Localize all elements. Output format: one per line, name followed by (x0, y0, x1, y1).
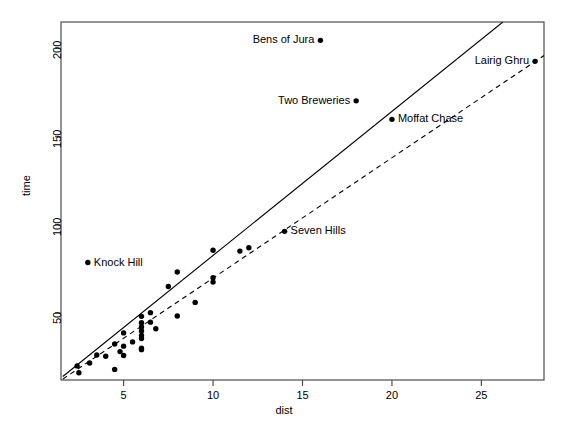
x-tick-label: 10 (205, 389, 221, 401)
data-point (210, 248, 215, 253)
data-point (166, 284, 171, 289)
point-label: Seven Hills (291, 224, 346, 236)
data-point (192, 300, 197, 305)
plot-frame (61, 22, 544, 380)
data-point (87, 360, 92, 365)
data-point (139, 324, 144, 329)
data-point (175, 313, 180, 318)
fit-line-least-squares (63, 22, 503, 376)
data-point (130, 339, 135, 344)
data-point (148, 310, 153, 315)
data-point (139, 314, 144, 319)
point-label: Knock Hill (94, 256, 143, 268)
data-point (210, 275, 215, 280)
x-tick-label: 5 (116, 389, 132, 401)
y-axis-title: time (20, 175, 32, 196)
x-axis-title: dist (0, 404, 568, 416)
x-tick-label: 15 (295, 389, 311, 401)
data-point (94, 352, 99, 357)
data-point (103, 353, 108, 358)
x-tick-label: 25 (473, 389, 489, 401)
point-label: Bens of Jura (253, 33, 315, 45)
data-point (353, 98, 358, 103)
data-point (112, 367, 117, 372)
y-tick-label: 100 (51, 217, 63, 235)
data-point (532, 59, 537, 64)
data-point (175, 269, 180, 274)
chart-canvas: time dist 51015202550100150200 Bens of J… (0, 0, 568, 431)
x-tick-label: 20 (384, 389, 400, 401)
data-point (76, 370, 81, 375)
data-point (148, 319, 153, 324)
point-label: Moffat Chase (398, 112, 463, 124)
data-point (85, 260, 90, 265)
y-tick-label: 50 (51, 312, 63, 324)
data-point (139, 336, 144, 341)
y-tick-label: 200 (51, 41, 63, 59)
data-point (282, 229, 287, 234)
data-point (246, 245, 251, 250)
point-label: Two Breweries (278, 94, 350, 106)
data-point (121, 330, 126, 335)
data-point (153, 326, 158, 331)
data-point (74, 363, 79, 368)
data-point (112, 341, 117, 346)
data-point (237, 248, 242, 253)
y-tick-label: 150 (51, 129, 63, 147)
data-point (121, 343, 126, 348)
data-point (318, 38, 323, 43)
data-point (139, 347, 144, 352)
point-label: Lairig Ghru (475, 54, 529, 66)
data-point (389, 117, 394, 122)
data-point (121, 353, 126, 358)
